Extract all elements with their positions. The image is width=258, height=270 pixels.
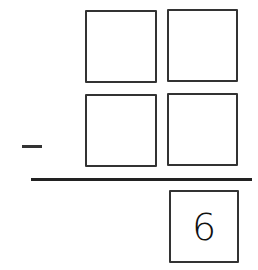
minuend-tens-box[interactable] bbox=[85, 10, 157, 83]
subtrahend-tens-box[interactable] bbox=[85, 94, 157, 167]
result-divider-line bbox=[31, 178, 252, 181]
result-ones-box: 6 bbox=[169, 190, 239, 263]
minuend-ones-box[interactable] bbox=[167, 9, 238, 82]
result-digit: 6 bbox=[192, 208, 216, 246]
minus-sign bbox=[22, 145, 42, 148]
subtrahend-ones-box[interactable] bbox=[167, 93, 238, 166]
